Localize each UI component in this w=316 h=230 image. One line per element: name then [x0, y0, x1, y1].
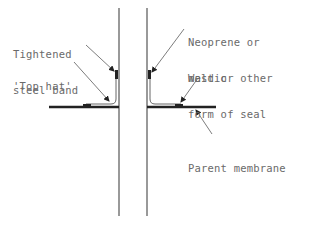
steel-band-block	[115, 70, 118, 79]
label-top-hat-text: 'Top hat'	[13, 80, 72, 92]
weld-patch-left	[83, 104, 91, 107]
label-weld: Weld or other form of seal	[188, 48, 273, 132]
label-weld-line1: Weld or other	[188, 72, 273, 84]
neoprene-block	[148, 70, 151, 79]
label-parent-membrane-text: Parent membrane	[188, 162, 286, 174]
label-parent-membrane: Parent membrane	[188, 138, 286, 186]
label-top-hat: 'Top hat'	[13, 56, 72, 104]
label-neoprene-line1: Neoprene or	[188, 36, 260, 48]
arrow-neoprene	[152, 29, 184, 72]
top-hat-right	[150, 70, 181, 104]
top-hat-left	[86, 70, 116, 104]
arrow-top-hat	[74, 62, 109, 101]
weld-patch-right	[175, 104, 183, 107]
arrow-steel-band	[86, 45, 114, 71]
label-weld-line2: form of seal	[188, 108, 273, 120]
